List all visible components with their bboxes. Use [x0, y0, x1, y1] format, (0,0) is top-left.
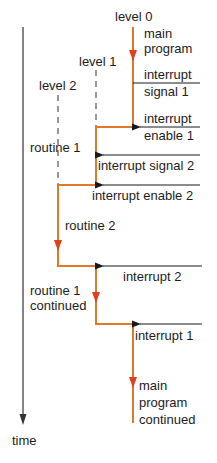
- arrowhead-icon: [92, 292, 100, 303]
- interrupt-enable-2-label: interrupt enable 2: [92, 188, 193, 203]
- main-program-continued-label: main program continued: [139, 377, 195, 428]
- time-arrow-icon: [20, 414, 27, 425]
- main-program-label: main program: [144, 26, 192, 56]
- time-axis: [20, 27, 27, 425]
- routine-1-label: routine 1: [30, 140, 81, 155]
- interrupt-2-label: interrupt 2: [123, 269, 182, 284]
- level-1-label: level 1: [79, 54, 117, 69]
- arrowhead-icon: [129, 377, 137, 388]
- time-axis-label: time: [12, 433, 37, 448]
- interrupt-1-label: interrupt 1: [135, 328, 194, 343]
- interrupt-signal-1-label: interrupt signal 1: [144, 66, 192, 100]
- level-2-label: level 2: [39, 78, 77, 93]
- level-0-label: level 0: [115, 9, 153, 24]
- routine-2-label: routine 2: [65, 218, 116, 233]
- arrowhead-icon: [54, 240, 62, 251]
- interrupt-signal-2-label: interrupt signal 2: [98, 158, 194, 173]
- interrupt-enable-1-label: interrupt enable 1: [144, 110, 194, 144]
- arrowhead-icon: [129, 50, 137, 61]
- routine-1-continued-label: routine 1 continued: [30, 283, 86, 313]
